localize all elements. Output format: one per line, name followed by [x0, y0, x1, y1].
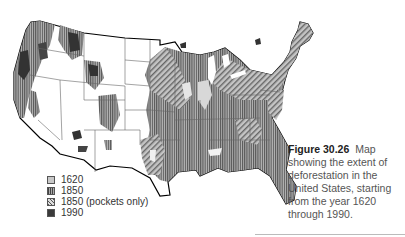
swatch-1850-pockets-icon — [47, 198, 55, 206]
legend-item-1850-pockets: 1850 (pockets only) — [47, 196, 148, 207]
swatch-1990-icon — [47, 209, 55, 217]
mn-dark — [180, 42, 186, 48]
legend-item-1990: 1990 — [47, 207, 148, 218]
legend-label: 1850 (pockets only) — [61, 196, 148, 207]
texas-clearing — [150, 150, 156, 162]
swatch-1620-icon — [47, 176, 55, 184]
legend-label: 1990 — [61, 207, 83, 218]
ne-dark-1 — [255, 38, 261, 45]
divider — [255, 234, 405, 235]
lake-superior — [186, 42, 202, 52]
legend-label: 1620 — [61, 174, 83, 185]
figure-number: Figure 30.26 — [288, 143, 349, 155]
swatch-1850-icon — [47, 187, 55, 195]
map-legend: 1620 1850 1850 (pockets only) 1990 — [47, 174, 148, 218]
deforestation-figure: 1620 1850 1850 (pockets only) 1990 Figur… — [0, 0, 405, 237]
figure-caption: Figure 30.26Map showing the extent of de… — [288, 143, 405, 221]
legend-item-1850: 1850 — [47, 185, 148, 196]
legend-label: 1850 — [61, 185, 83, 196]
legend-item-1620: 1620 — [47, 174, 148, 185]
